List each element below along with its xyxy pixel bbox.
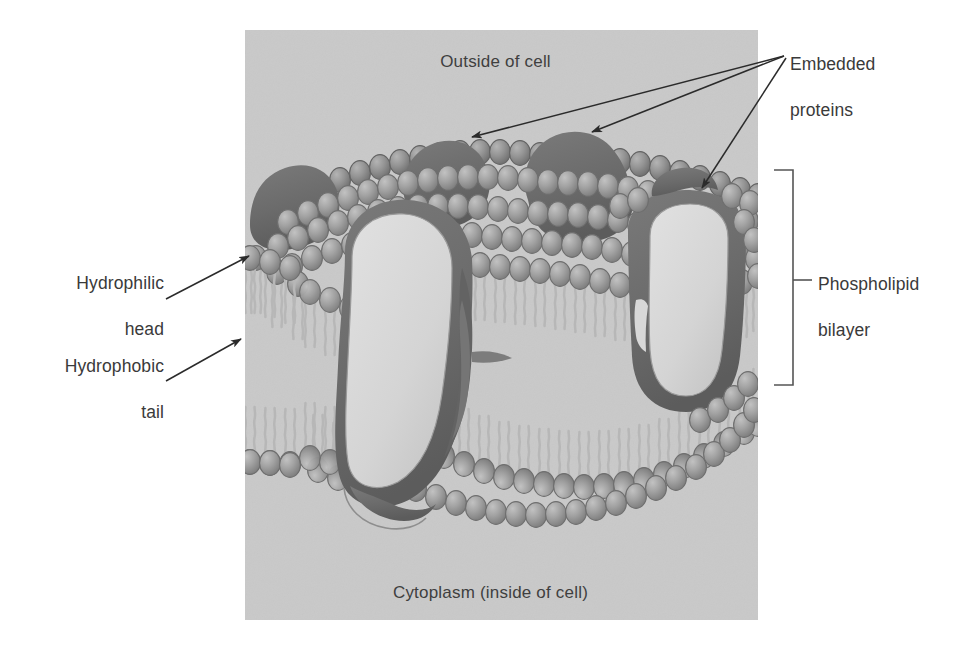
label-hydrophilic-head: Hydrophilic head [8,249,164,341]
label-hydrophobic-tail-line1: Hydrophobic [65,356,164,376]
label-cytoplasm: Cytoplasm (inside of cell) [0,583,961,603]
arrow-hydrophobic-tail [166,339,241,381]
label-hydrophilic-head-line1: Hydrophilic [76,273,164,293]
channel-protein-right [628,190,746,412]
label-phospholipid-bilayer: Phospholipid bilayer [818,250,919,342]
label-embedded-proteins: Embedded proteins [790,30,875,122]
label-hydrophobic-tail-line2: tail [141,402,164,422]
label-embedded-proteins-line1: Embedded [790,54,875,74]
phospholipid-bilayer-bracket [774,170,812,385]
label-hydrophobic-tail: Hydrophobic tail [8,332,164,424]
label-phospholipid-bilayer-line2: bilayer [818,320,870,340]
label-embedded-proteins-line2: proteins [790,100,853,120]
label-phospholipid-bilayer-line1: Phospholipid [818,274,919,294]
cell-membrane-figure: Outside of cell Cytoplasm (inside of cel… [0,0,961,649]
arrow-hydrophilic-head [166,256,249,299]
